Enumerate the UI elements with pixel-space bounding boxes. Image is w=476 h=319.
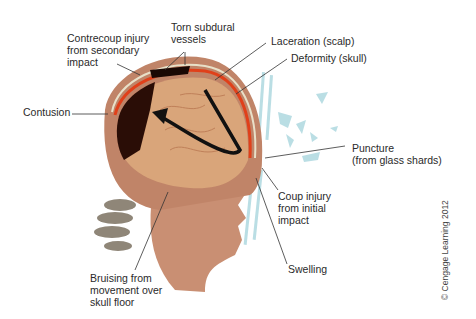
spine [94,199,136,251]
label-coup-injury: Coup injury from initial impact [278,190,331,226]
label-swelling: Swelling [288,263,327,275]
label-bruising: Bruising from movement over skull floor [90,272,162,308]
label-puncture: Puncture (from glass shards) [352,142,442,166]
label-deformity-skull: Deformity (skull) [291,52,367,64]
label-torn-subdural-vessels: Torn subdural vessels [171,21,235,45]
label-contrecoup-injury: Contrecoup injury from secondary impact [67,32,149,68]
copyright-notice: © Cengage Learning 2012 [440,200,450,300]
label-laceration-scalp: Laceration (scalp) [271,35,354,47]
label-contusion: Contusion [23,106,70,118]
